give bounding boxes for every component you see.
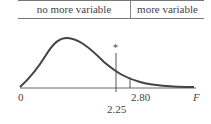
statistic-label: 2.25 <box>107 103 126 115</box>
axis-variable-label: F <box>193 91 200 103</box>
origin-label: 0 <box>18 91 24 103</box>
star-annotation: * <box>113 42 118 54</box>
critical-value-label: 2.80 <box>131 91 150 103</box>
density-curve <box>20 38 194 87</box>
f-distribution-plot <box>0 0 211 124</box>
